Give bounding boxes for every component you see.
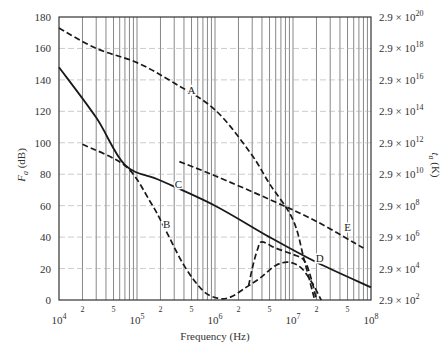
x-minor-tick-label: 5 bbox=[268, 305, 272, 314]
x-axis-ticks: 10410510610710825252525 bbox=[52, 305, 379, 326]
y2-tick-label: 2.9 × 1016 bbox=[379, 72, 423, 86]
svg-text:Fa (dB): Fa (dB) bbox=[15, 148, 30, 183]
y2-tick-label: 2.9 × 1018 bbox=[379, 40, 423, 54]
y-tick-label: 160 bbox=[35, 42, 52, 54]
y-tick-label: 100 bbox=[35, 137, 52, 149]
y2-tick-label: 2.9 × 1012 bbox=[379, 135, 423, 149]
curve-label-a: A bbox=[188, 84, 196, 96]
x-minor-tick-label: 5 bbox=[112, 305, 116, 314]
y-axis-ticks: 020406080100120140160180 bbox=[35, 11, 52, 306]
y-tick-label: 20 bbox=[40, 263, 52, 275]
y2-tick-label: 2.9 × 102 bbox=[379, 292, 419, 306]
x-tick-label: 108 bbox=[364, 312, 379, 326]
y2-tick-label: 2.9 × 1014 bbox=[379, 103, 423, 117]
x-minor-tick-label: 2 bbox=[314, 305, 318, 314]
y-axis-title: Fa (dB) bbox=[15, 148, 30, 183]
x-minor-tick-label: 2 bbox=[80, 305, 84, 314]
y2-axis-ticks: 2.9 × 1022.9 × 1042.9 × 1062.9 × 1082.9 … bbox=[379, 9, 423, 306]
y-tick-label: 180 bbox=[35, 11, 52, 23]
y-tick-label: 0 bbox=[46, 294, 52, 306]
y2-tick-label: 2.9 × 106 bbox=[379, 229, 419, 243]
x-tick-label: 105 bbox=[130, 312, 145, 326]
curve-e bbox=[179, 162, 363, 249]
curve-label-e: E bbox=[344, 221, 351, 233]
y-tick-label: 60 bbox=[40, 200, 52, 212]
x-tick-label: 107 bbox=[286, 312, 301, 326]
y-tick-label: 40 bbox=[40, 231, 52, 243]
grid bbox=[59, 17, 371, 300]
x-tick-label: 106 bbox=[208, 312, 223, 326]
y-tick-label: 80 bbox=[40, 168, 52, 180]
y2-tick-label: 2.9 × 1010 bbox=[379, 166, 423, 180]
x-minor-tick-label: 5 bbox=[190, 305, 194, 314]
y-axis-title-unit: (dB) bbox=[15, 148, 28, 171]
curve-a bbox=[59, 28, 315, 300]
curve-label-d: D bbox=[316, 252, 324, 264]
y2-tick-label: 2.9 × 108 bbox=[379, 198, 419, 212]
curve-label-c: C bbox=[175, 178, 182, 190]
y2-tick-label: 2.9 × 104 bbox=[379, 261, 419, 275]
curve-label-b: B bbox=[163, 218, 170, 230]
y2-axis-title: ta (K) bbox=[427, 152, 442, 177]
x-minor-tick-label: 5 bbox=[346, 305, 350, 314]
svg-text:ta (K): ta (K) bbox=[427, 152, 442, 177]
y2-axis-title-unit: (K) bbox=[429, 160, 442, 178]
x-axis-title: Frequency (Hz) bbox=[180, 330, 250, 343]
y2-tick-label: 2.9 × 1020 bbox=[379, 9, 423, 23]
x-tick-label: 104 bbox=[52, 312, 67, 326]
x-minor-tick-label: 2 bbox=[158, 305, 162, 314]
y-tick-label: 120 bbox=[35, 105, 52, 117]
x-minor-tick-label: 2 bbox=[236, 305, 240, 314]
noise-figure-chart: 020406080100120140160180 2.9 × 1022.9 × … bbox=[0, 0, 446, 353]
y-tick-label: 140 bbox=[35, 74, 52, 86]
